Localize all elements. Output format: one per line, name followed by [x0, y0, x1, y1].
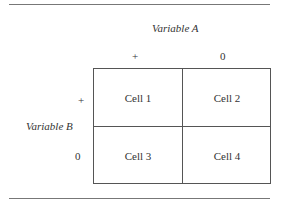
bottom-rule [9, 198, 270, 199]
variable-a-level-zero: 0 [220, 50, 226, 62]
top-rule [9, 4, 270, 5]
cell-2-label: Cell 2 [214, 92, 241, 104]
contingency-grid: Cell 1 Cell 2 Cell 3 Cell 4 [93, 68, 271, 184]
cell-2: Cell 2 [183, 69, 271, 126]
variable-b-level-zero: 0 [75, 150, 81, 162]
variable-a-level-plus: + [132, 50, 138, 62]
cell-1-label: Cell 1 [125, 92, 152, 104]
variable-b-level-plus: + [78, 94, 84, 106]
cell-4-label: Cell 4 [214, 150, 241, 162]
cell-3-label: Cell 3 [125, 150, 152, 162]
cell-3: Cell 3 [94, 127, 182, 184]
cell-1: Cell 1 [94, 69, 182, 126]
variable-a-label: Variable A [152, 22, 199, 34]
variable-b-label: Variable B [26, 120, 73, 132]
cell-4: Cell 4 [183, 127, 271, 184]
